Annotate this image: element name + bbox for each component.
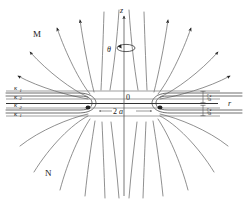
pole-label-M: M bbox=[33, 29, 41, 39]
thickness-upper-text: d/2 bbox=[206, 94, 212, 101]
right-focus-point bbox=[158, 106, 163, 110]
thickness-lower-text: d/2 bbox=[206, 108, 212, 115]
left-focus-point bbox=[86, 106, 91, 110]
field-line-diagram: z r θ 0 M N κ 1 κ 2 κ 2 κ 1 2 a bbox=[0, 0, 247, 203]
theta-label: θ bbox=[107, 45, 111, 54]
layer-subscript: 1 bbox=[20, 113, 22, 118]
thickness-label-lower: d/2 bbox=[206, 108, 212, 115]
gap-symbol: a bbox=[119, 107, 123, 116]
figure-root: z r θ 0 M N κ 1 κ 2 κ 2 κ 1 2 a bbox=[0, 0, 247, 203]
origin-label: 0 bbox=[126, 93, 130, 102]
gap-numeral: 2 bbox=[113, 107, 117, 116]
thickness-label-upper: d/2 bbox=[206, 94, 212, 101]
pole-label-N: N bbox=[45, 168, 52, 178]
layer-subscript: 1 bbox=[20, 88, 22, 93]
